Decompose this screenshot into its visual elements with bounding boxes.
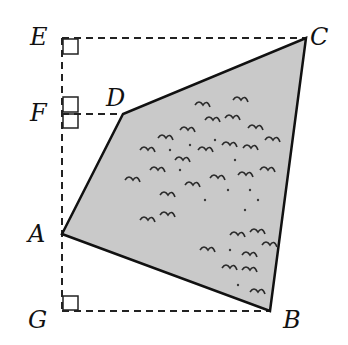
quadrilateral-ABCD (62, 38, 306, 311)
label-A: A (26, 220, 45, 248)
right-angle-mark-F-upper (63, 97, 78, 112)
label-C: C (310, 23, 328, 51)
label-G: G (28, 306, 47, 334)
label-D: D (105, 84, 125, 112)
right-angle-mark-F-lower (63, 114, 78, 128)
right-angle-mark-G (63, 296, 78, 310)
label-F: F (29, 99, 48, 127)
right-angle-mark-E (63, 39, 78, 54)
label-E: E (29, 23, 48, 51)
geometry-diagram: E C D F A G B (0, 0, 348, 345)
right-angle-marks (63, 39, 78, 310)
label-B: B (282, 306, 301, 334)
